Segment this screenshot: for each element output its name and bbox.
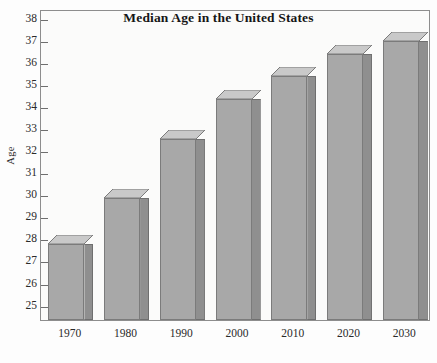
y-tick-mark (41, 152, 48, 153)
bar-top-face (271, 67, 316, 76)
bar-top-face (48, 235, 93, 244)
bar (48, 235, 93, 320)
bar-front-face (271, 76, 307, 320)
y-tick-label: 30 (3, 190, 37, 202)
x-tick-label: 1980 (114, 327, 137, 340)
y-tick-mark (41, 240, 48, 241)
bar-top-face (160, 130, 205, 139)
y-tick-label: 38 (3, 13, 37, 25)
y-tick-mark (41, 42, 48, 43)
x-axis-ticks: 1970198019902000201020202030 (40, 327, 430, 347)
x-tick-label: 2000 (226, 327, 249, 340)
bar (104, 189, 149, 320)
y-tick-mark (41, 64, 48, 65)
bar (216, 90, 261, 320)
y-tick-mark (41, 130, 48, 131)
bar (160, 130, 205, 320)
x-tick-label: 1990 (170, 327, 193, 340)
y-tick-label: 37 (3, 35, 37, 47)
x-tick-label: 2020 (337, 327, 360, 340)
bar-top-face (327, 45, 372, 54)
y-tick-label: 26 (3, 278, 37, 290)
y-tick-label: 25 (3, 300, 37, 312)
bar-side-face (196, 139, 205, 320)
y-tick-label: 34 (3, 101, 37, 113)
bar-front-face (327, 54, 363, 320)
bar (383, 32, 428, 320)
bar-side-face (307, 76, 316, 320)
bar (271, 67, 316, 320)
x-tick-label: 2030 (393, 327, 416, 340)
y-tick-label: 28 (3, 234, 37, 246)
bar-front-face (104, 198, 140, 320)
bar-side-face (140, 198, 149, 320)
bar-side-face (419, 41, 428, 320)
y-tick-mark (41, 86, 48, 87)
plot-area (40, 10, 430, 321)
bar-side-face (84, 244, 93, 320)
bar-front-face (216, 99, 252, 320)
bar-top-face (383, 32, 428, 41)
y-axis-title: Age (5, 136, 16, 176)
bar-top-face (216, 90, 261, 99)
bar-side-face (363, 54, 372, 320)
y-tick-label: 29 (3, 212, 37, 224)
y-tick-mark (41, 20, 48, 21)
plot-inner (41, 11, 429, 320)
y-tick-label: 27 (3, 256, 37, 268)
y-tick-label: 36 (3, 57, 37, 69)
bar (327, 45, 372, 320)
y-tick-mark (41, 285, 48, 286)
y-tick-mark (41, 307, 48, 308)
bar-front-face (383, 41, 419, 320)
bar-top-face (104, 189, 149, 198)
y-tick-mark (41, 196, 48, 197)
bar-front-face (48, 244, 84, 320)
y-tick-mark (41, 262, 48, 263)
y-tick-mark (41, 174, 48, 175)
y-tick-mark (41, 108, 48, 109)
x-tick-label: 1970 (58, 327, 81, 340)
y-tick-mark (41, 218, 48, 219)
x-tick-label: 2010 (281, 327, 304, 340)
bar-front-face (160, 139, 196, 320)
bar-side-face (252, 99, 261, 320)
y-tick-label: 33 (3, 123, 37, 135)
chart-page: Median Age in the United States 25262728… (0, 0, 437, 363)
y-tick-label: 35 (3, 79, 37, 91)
